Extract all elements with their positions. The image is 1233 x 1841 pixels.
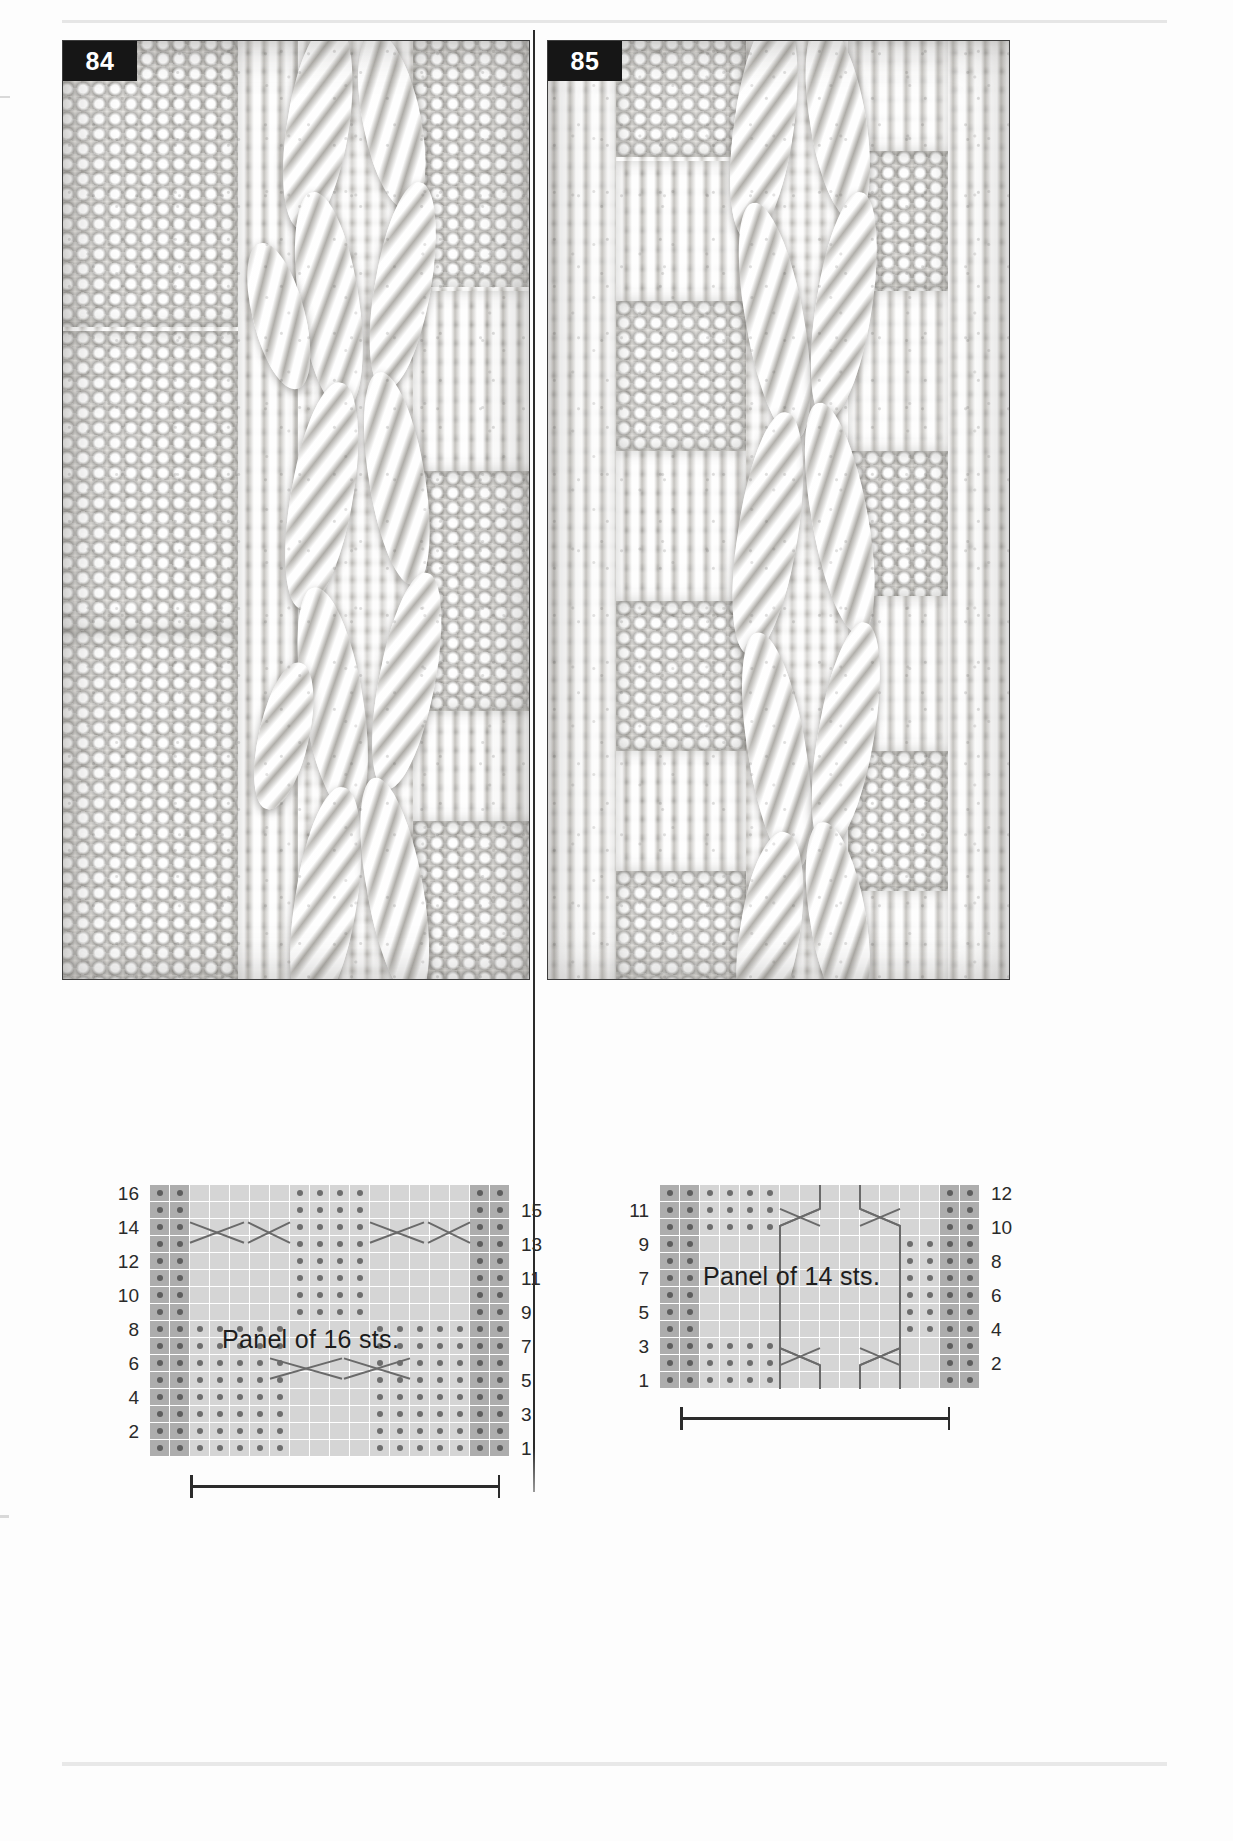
chart-cell xyxy=(470,1423,490,1440)
chart-cell xyxy=(290,1304,310,1321)
chart-row-number: 2 xyxy=(99,1423,150,1440)
chart-cell xyxy=(230,1185,250,1202)
chart-cell xyxy=(350,1287,370,1304)
chart-cell xyxy=(190,1236,210,1253)
purl-dot-icon xyxy=(707,1343,713,1349)
chart-cell xyxy=(470,1236,490,1253)
purl-dot-icon xyxy=(907,1275,913,1281)
chart-cell xyxy=(940,1253,960,1270)
chart-grid-row xyxy=(150,1304,510,1321)
purl-dot-icon xyxy=(477,1360,483,1366)
chart-cell xyxy=(290,1440,310,1457)
chart-cell xyxy=(290,1406,310,1423)
purl-dot-icon xyxy=(317,1258,323,1264)
chart-cell xyxy=(150,1406,170,1423)
chart-grid-row xyxy=(660,1236,980,1253)
chart-cell xyxy=(150,1355,170,1372)
chart-cell xyxy=(270,1355,290,1372)
chart-body: 16141210864215131197531 xyxy=(110,1185,550,1457)
chart-cell xyxy=(940,1219,960,1236)
purl-dot-icon xyxy=(157,1207,163,1213)
chart-cell xyxy=(960,1185,980,1202)
chart-cell xyxy=(310,1304,330,1321)
chart-cell xyxy=(390,1202,410,1219)
chart-row-number: 6 xyxy=(99,1355,150,1372)
chart-cell xyxy=(390,1372,410,1389)
purl-dot-icon xyxy=(477,1258,483,1264)
chart-cell xyxy=(490,1185,510,1202)
chart-cell xyxy=(290,1270,310,1287)
chart-cell xyxy=(490,1440,510,1457)
purl-dot-icon xyxy=(477,1292,483,1298)
chart-cell xyxy=(450,1304,470,1321)
chart-cell xyxy=(230,1304,250,1321)
purl-dot-icon xyxy=(477,1377,483,1383)
chart-cell xyxy=(290,1355,310,1372)
chart-cell xyxy=(860,1304,880,1321)
chart-cell xyxy=(430,1202,450,1219)
purl-dot-icon xyxy=(357,1207,363,1213)
chart-cell xyxy=(230,1389,250,1406)
purl-dot-icon xyxy=(397,1360,403,1366)
purl-dot-icon xyxy=(177,1292,183,1298)
purl-dot-icon xyxy=(297,1224,303,1230)
chart-cell xyxy=(960,1236,980,1253)
chart-cell xyxy=(170,1355,190,1372)
purl-dot-icon xyxy=(157,1326,163,1332)
purl-dot-icon xyxy=(257,1377,263,1383)
chart-cell xyxy=(960,1372,980,1389)
purl-dot-icon xyxy=(927,1258,933,1264)
purl-dot-icon xyxy=(177,1241,183,1247)
chart-cell xyxy=(330,1389,350,1406)
chart-row-number: 12 xyxy=(980,1185,1031,1202)
purl-dot-icon xyxy=(357,1275,363,1281)
purl-dot-icon xyxy=(337,1292,343,1298)
chart-cell xyxy=(330,1287,350,1304)
purl-dot-icon xyxy=(377,1394,383,1400)
chart-cell xyxy=(330,1355,350,1372)
chart-cell xyxy=(800,1236,820,1253)
chart-cell xyxy=(940,1236,960,1253)
chart-row-number: 8 xyxy=(99,1321,150,1338)
purl-dot-icon xyxy=(667,1241,673,1247)
purl-dot-icon xyxy=(967,1258,973,1264)
chart-cell xyxy=(680,1355,700,1372)
chart-cell xyxy=(250,1185,270,1202)
chart-cell xyxy=(760,1202,780,1219)
chart-cell xyxy=(390,1355,410,1372)
purl-dot-icon xyxy=(417,1377,423,1383)
purl-dot-icon xyxy=(217,1360,223,1366)
chart-cell xyxy=(230,1253,250,1270)
purl-dot-icon xyxy=(357,1258,363,1264)
chart-cell xyxy=(330,1406,350,1423)
chart-cell xyxy=(760,1321,780,1338)
chart-cell xyxy=(430,1372,450,1389)
purl-dot-icon xyxy=(747,1207,753,1213)
chart-cell xyxy=(720,1219,740,1236)
purl-dot-icon xyxy=(477,1445,483,1451)
purl-dot-icon xyxy=(317,1292,323,1298)
purl-dot-icon xyxy=(297,1241,303,1247)
chart-cell xyxy=(700,1185,720,1202)
chart-cell xyxy=(290,1236,310,1253)
chart-cell xyxy=(250,1287,270,1304)
chart-grid-row xyxy=(150,1372,510,1389)
chart-cell xyxy=(680,1236,700,1253)
purl-dot-icon xyxy=(437,1411,443,1417)
purl-dot-icon xyxy=(277,1360,283,1366)
chart-cell xyxy=(490,1287,510,1304)
purl-dot-icon xyxy=(477,1275,483,1281)
chart-cell xyxy=(900,1253,920,1270)
purl-dot-icon xyxy=(667,1326,673,1332)
purl-dot-icon xyxy=(157,1190,163,1196)
chart-cell xyxy=(960,1321,980,1338)
purl-dot-icon xyxy=(947,1258,953,1264)
chart-cell xyxy=(210,1406,230,1423)
chart-cell xyxy=(150,1236,170,1253)
chart-cell xyxy=(660,1253,680,1270)
chart-cell xyxy=(660,1270,680,1287)
chart-cell xyxy=(150,1253,170,1270)
purl-dot-icon xyxy=(687,1360,693,1366)
chart-cell xyxy=(190,1338,210,1355)
chart-grid-row xyxy=(150,1253,510,1270)
